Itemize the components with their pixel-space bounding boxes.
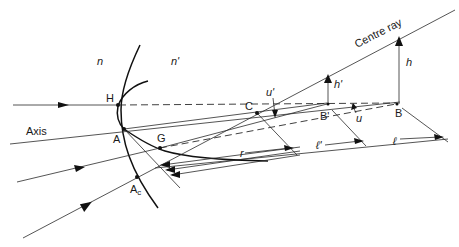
- label-bprime-point: B': [320, 110, 329, 122]
- point-b: [396, 103, 399, 106]
- refracted-ray-a-to-b: [124, 103, 327, 129]
- ray-c-to-bprime: [160, 104, 327, 148]
- point-h: [116, 103, 120, 107]
- label-h-prime: h': [334, 78, 343, 90]
- refracted-ray-top-dashed: [119, 103, 396, 105]
- label-c-point: C: [245, 100, 253, 112]
- l-dimension: [400, 137, 440, 139]
- point-ac: [135, 175, 139, 179]
- label-n-prime: n': [171, 55, 180, 67]
- axis-line: [10, 102, 400, 144]
- label-b-point: B: [395, 107, 402, 119]
- point-bprime: [327, 103, 330, 106]
- label-r: r: [240, 147, 245, 159]
- label-axis: Axis: [26, 125, 47, 137]
- label-g-point: G: [157, 132, 166, 144]
- caustic-curve: [124, 129, 268, 161]
- diagram-canvas: n n' H Axis A G Ac C B' B Centre ray h h…: [0, 0, 459, 247]
- arrow-icon: [80, 202, 92, 212]
- label-n: n: [97, 55, 103, 67]
- label-a-point: A: [113, 133, 121, 145]
- label-u-prime: u': [266, 86, 275, 98]
- label-ac-point: Ac: [130, 183, 141, 197]
- label-u: u: [356, 112, 362, 124]
- point-g: [158, 146, 162, 150]
- arrow-icon: [58, 102, 69, 108]
- label-l-prime: ℓ': [315, 139, 323, 151]
- scale-line: [155, 139, 448, 168]
- point-c: [255, 111, 259, 115]
- label-h: h: [406, 56, 412, 68]
- optics-diagram: n n' H Axis A G Ac C B' B Centre ray h h…: [0, 0, 459, 247]
- label-l: ℓ: [392, 135, 397, 147]
- return-ray-3: [172, 155, 300, 175]
- point-a: [122, 127, 126, 131]
- normal-through-a: [124, 129, 180, 188]
- label-h-point: H: [106, 92, 114, 104]
- r-dimension: [245, 148, 290, 153]
